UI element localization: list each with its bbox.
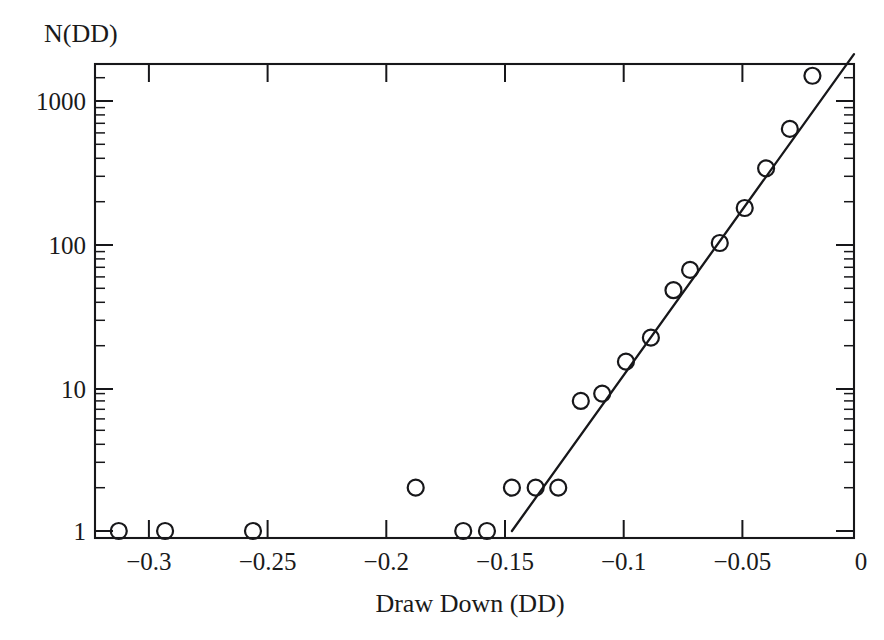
y-axis-tick-labels: 1000 100 10 1 [36, 88, 86, 545]
y-tick-label: 1 [74, 518, 87, 545]
data-point [618, 354, 634, 370]
data-point [594, 386, 610, 402]
data-point [782, 121, 798, 137]
exponential-fit-line [512, 54, 854, 531]
y-axis-minor-ticks [95, 78, 854, 488]
x-tick-label: 0 [855, 548, 868, 575]
y-tick-label: 100 [49, 232, 87, 259]
x-axis-tick-labels: −0.3 −0.25 −0.2 −0.15 −0.1 −0.05 0 [126, 548, 867, 575]
data-point [479, 523, 495, 539]
data-point [504, 480, 520, 496]
fit-line-group [512, 54, 854, 531]
x-axis-ticks [149, 64, 743, 538]
data-point [111, 523, 127, 539]
data-point [804, 68, 820, 84]
x-tick-label: −0.25 [239, 548, 297, 575]
x-tick-label: −0.3 [126, 548, 171, 575]
x-tick-label: −0.05 [713, 548, 771, 575]
data-point [408, 480, 424, 496]
data-point [245, 523, 261, 539]
data-point [550, 480, 566, 496]
data-point [682, 262, 698, 278]
data-point [455, 523, 471, 539]
plot-frame [95, 64, 854, 538]
y-tick-label: 1000 [36, 88, 86, 115]
data-point [157, 523, 173, 539]
y-tick-label: 10 [61, 376, 86, 403]
plot-svg: N(DD) [0, 0, 884, 640]
data-point [665, 282, 681, 298]
chart-figure: N(DD) [0, 0, 884, 640]
y-axis-major-ticks [95, 101, 854, 531]
x-axis-title: Draw Down (DD) [375, 589, 564, 618]
data-point [573, 393, 589, 409]
x-tick-label: −0.2 [364, 548, 409, 575]
y-axis-title: N(DD) [44, 19, 118, 48]
data-point [528, 480, 544, 496]
x-tick-label: −0.1 [601, 548, 646, 575]
data-points-group [111, 68, 821, 539]
x-tick-label: −0.15 [476, 548, 534, 575]
